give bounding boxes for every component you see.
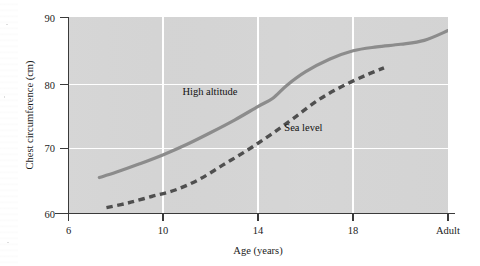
- x-axis-title: Age (years): [233, 245, 283, 257]
- annotation-sea-level: Sea level: [284, 122, 322, 133]
- annotation-high-altitude: High altitude: [182, 86, 237, 97]
- y-axis-title: Chest circumference (cm): [24, 60, 36, 170]
- y-axis-ticks: [60, 18, 68, 214]
- x-tick-label-18: 18: [348, 225, 359, 236]
- y-tick-label-60: 60: [45, 209, 56, 220]
- y-tick-label-80: 80: [45, 80, 56, 91]
- x-tick-label-adult: Adult: [436, 225, 460, 236]
- chart-figure: 90 80 70 60 6 10 14 18 Adult Age (years)…: [0, 0, 480, 266]
- y-tick-label-70: 70: [45, 143, 56, 154]
- x-tick-label-14: 14: [253, 225, 264, 236]
- x-tick-label-10: 10: [158, 225, 169, 236]
- chest-circumference-line-chart: 90 80 70 60 6 10 14 18 Adult Age (years)…: [0, 0, 480, 266]
- x-tick-label-6: 6: [66, 225, 71, 236]
- y-tick-label-90: 90: [45, 13, 56, 24]
